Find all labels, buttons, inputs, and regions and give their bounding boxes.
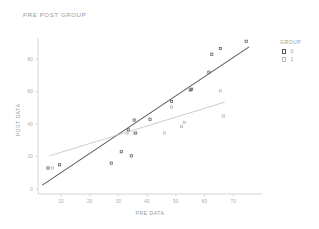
regression-line-group-0 <box>42 47 249 185</box>
data-point-group-0 <box>120 151 122 153</box>
y-tick-label: 20 <box>27 154 33 159</box>
data-point-group-0 <box>133 119 135 121</box>
data-point-group-0 <box>110 162 112 164</box>
y-tick-label: 0 <box>30 187 33 192</box>
legend-entry-1[interactable]: 1 <box>280 56 318 63</box>
legend-marker-icon <box>282 57 286 61</box>
y-axis-title: POST DATA <box>15 104 21 137</box>
axes-group <box>38 38 262 194</box>
x-axis-ticks: 10203040506070 <box>58 194 236 204</box>
legend-entries: 01 <box>280 48 318 63</box>
x-tick-label: 10 <box>58 199 64 204</box>
x-tick-label: 60 <box>202 199 208 204</box>
data-point-group-0 <box>47 167 49 169</box>
y-tick-label: 40 <box>27 122 33 127</box>
data-point-group-1 <box>180 125 182 127</box>
data-point-group-0 <box>149 118 151 120</box>
scatter-plot: 10203040506070 020406080 PRE DATA POST D… <box>0 0 319 229</box>
regression-lines <box>42 47 249 185</box>
x-tick-label: 30 <box>116 199 122 204</box>
data-point-group-1 <box>219 90 221 92</box>
data-point-group-0 <box>208 71 210 73</box>
legend-entry-label: 0 <box>290 48 293 55</box>
data-point-group-1 <box>51 167 53 169</box>
x-axis-title: PRE DATA <box>136 210 165 216</box>
data-point-group-1 <box>170 106 172 108</box>
x-tick-label: 40 <box>144 199 150 204</box>
data-point-group-0 <box>245 40 247 42</box>
x-tick-label: 70 <box>231 199 237 204</box>
data-point-group-0 <box>127 129 129 131</box>
data-point-group-1 <box>183 121 185 123</box>
data-point-group-0 <box>170 100 172 102</box>
data-point-group-0 <box>219 47 221 49</box>
x-tick-label: 20 <box>87 199 93 204</box>
x-tick-label: 50 <box>173 199 179 204</box>
legend-marker-icon <box>282 49 286 53</box>
y-tick-label: 60 <box>27 89 33 94</box>
legend-title: GROUP <box>280 39 318 45</box>
legend-entry-0[interactable]: 0 <box>280 48 318 55</box>
y-tick-label: 80 <box>27 57 33 62</box>
data-point-group-0 <box>58 164 60 166</box>
y-axis-ticks: 020406080 <box>27 57 38 192</box>
legend: GROUP 01 <box>280 39 318 64</box>
data-point-group-0 <box>211 53 213 55</box>
data-point-group-1 <box>222 115 224 117</box>
legend-entry-label: 1 <box>290 56 293 63</box>
data-point-group-0 <box>130 155 132 157</box>
regression-line-group-1 <box>49 102 224 156</box>
data-point-group-1 <box>163 132 165 134</box>
data-point-group-1 <box>126 132 128 134</box>
chart-screenshot: PRE POST GROUP 10203040506070 020406080 … <box>0 0 319 229</box>
